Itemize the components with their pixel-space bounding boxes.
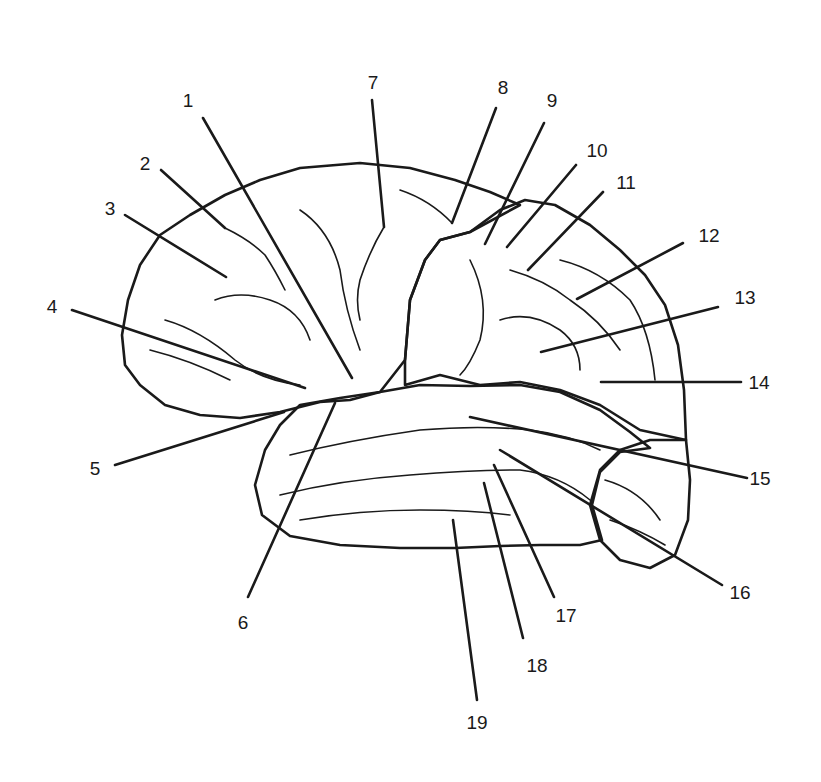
label-number: 3 xyxy=(105,198,116,219)
label-number: 11 xyxy=(616,172,636,193)
label-number: 15 xyxy=(749,468,770,489)
label-9: 9 xyxy=(485,90,557,244)
label-number: 2 xyxy=(140,153,151,174)
label-number: 19 xyxy=(466,712,487,733)
label-10: 10 xyxy=(507,140,608,247)
label-2: 2 xyxy=(140,153,225,228)
label-4: 4 xyxy=(47,296,305,388)
label-3: 3 xyxy=(105,198,226,277)
label-16: 16 xyxy=(500,450,751,603)
label-number: 8 xyxy=(498,77,509,98)
label-number: 5 xyxy=(90,458,101,479)
brain-diagram: 1 2 3 4 5 6 7 8 9 10 11 12 13 14 15 16 1… xyxy=(0,0,821,782)
label-number: 16 xyxy=(729,582,750,603)
label-number: 6 xyxy=(238,612,249,633)
label-number: 18 xyxy=(526,655,547,676)
sulci xyxy=(150,190,665,545)
label-number: 7 xyxy=(368,72,379,93)
label-number: 9 xyxy=(547,90,558,111)
parietal-lobe xyxy=(405,200,686,440)
label-number: 17 xyxy=(555,605,576,626)
label-group: 1 2 3 4 5 6 7 8 9 10 11 12 13 14 15 16 1… xyxy=(47,72,771,733)
label-number: 4 xyxy=(47,296,58,317)
label-6: 6 xyxy=(238,403,335,633)
label-5: 5 xyxy=(90,412,284,479)
label-14: 14 xyxy=(601,372,770,393)
label-number: 12 xyxy=(698,225,719,246)
label-8: 8 xyxy=(452,77,508,223)
label-number: 10 xyxy=(586,140,607,161)
label-19: 19 xyxy=(453,520,488,733)
label-number: 14 xyxy=(748,372,770,393)
label-7: 7 xyxy=(368,72,384,227)
occipital-lobe xyxy=(590,440,690,568)
label-number: 13 xyxy=(734,287,755,308)
label-1: 1 xyxy=(183,90,352,378)
label-12: 12 xyxy=(577,225,720,299)
label-number: 1 xyxy=(183,90,194,111)
